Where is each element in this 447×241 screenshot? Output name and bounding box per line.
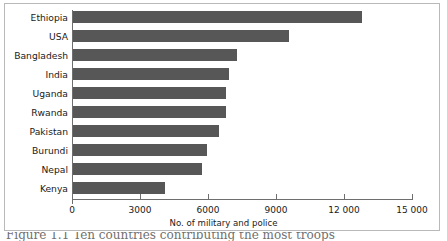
bar xyxy=(73,106,226,118)
x-axis-tick-label: 6000 xyxy=(197,205,220,215)
category-label: Ethiopia xyxy=(2,12,68,23)
x-axis-title: No. of military and police xyxy=(0,218,447,228)
x-axis-tick xyxy=(140,194,141,199)
figure-caption-text: Figure 1.1 Ten countries contributing th… xyxy=(6,232,436,241)
x-axis-tick xyxy=(276,194,277,199)
bar xyxy=(73,125,219,137)
figure-caption: Figure 1.1 Ten countries contributing th… xyxy=(6,232,436,241)
bar xyxy=(73,30,289,42)
category-label: Nepal xyxy=(2,164,68,175)
y-axis-line xyxy=(72,10,73,199)
category-label: Pakistan xyxy=(2,126,68,137)
bar xyxy=(73,144,207,156)
category-label: Burundi xyxy=(2,145,68,156)
x-axis-tick-label: 15 000 xyxy=(396,205,428,215)
category-label: Rwanda xyxy=(2,107,68,118)
x-axis-tick xyxy=(344,194,345,199)
x-axis-tick xyxy=(72,199,73,204)
bar xyxy=(73,11,362,23)
x-axis-tick xyxy=(208,194,209,199)
x-axis-line xyxy=(72,199,413,200)
bar xyxy=(73,87,226,99)
category-label: India xyxy=(2,69,68,80)
x-axis-tick xyxy=(412,194,413,199)
bar xyxy=(73,182,165,194)
x-axis-tick-label: 0 xyxy=(69,205,75,215)
x-axis-tick-label: 9000 xyxy=(265,205,288,215)
category-label: Bangladesh xyxy=(2,50,68,61)
category-label: Kenya xyxy=(2,183,68,194)
x-axis-tick-label: 12 000 xyxy=(328,205,360,215)
bar xyxy=(73,49,237,61)
bar xyxy=(73,68,229,80)
chart-page: Ethiopia USA Bangladesh India Uganda Rwa… xyxy=(0,0,447,241)
bar-chart-plot: Ethiopia USA Bangladesh India Uganda Rwa… xyxy=(0,0,447,241)
category-label: USA xyxy=(2,31,68,42)
x-axis-tick-label: 3000 xyxy=(129,205,152,215)
category-label: Uganda xyxy=(2,88,68,99)
bar xyxy=(73,163,202,175)
